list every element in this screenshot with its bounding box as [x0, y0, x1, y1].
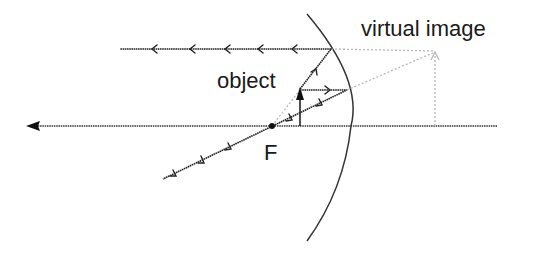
convex-mirror-ray-diagram: object virtual image F: [0, 0, 552, 258]
object-label: object: [217, 68, 276, 93]
convex-mirror: [307, 14, 353, 241]
virtual-image-arrow: [431, 52, 439, 126]
principal-axis: [26, 121, 497, 131]
ray-2: [163, 86, 347, 179]
axis-arrow-left-icon: [26, 121, 40, 131]
focal-point-label: F: [264, 140, 277, 165]
virtual-image-label: virtual image: [361, 16, 486, 41]
focal-point-dot: [269, 123, 275, 129]
